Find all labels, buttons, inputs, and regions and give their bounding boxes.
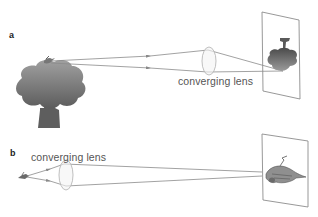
converging-lens-a — [202, 47, 216, 75]
panel-a — [16, 12, 300, 128]
inverted-bird-image-icon — [266, 156, 306, 183]
tree-icon — [16, 60, 85, 128]
panel-b — [18, 134, 308, 207]
converging-lens-b — [59, 160, 73, 190]
lens-label-b: converging lens — [31, 151, 106, 163]
inverted-tree-image-icon — [268, 38, 298, 71]
light-rays-a — [51, 50, 283, 72]
optics-diagram — [0, 0, 318, 217]
panel-label-b: b — [10, 148, 16, 158]
panel-label-a: a — [9, 30, 14, 40]
lens-label-a: converging lens — [178, 75, 253, 87]
